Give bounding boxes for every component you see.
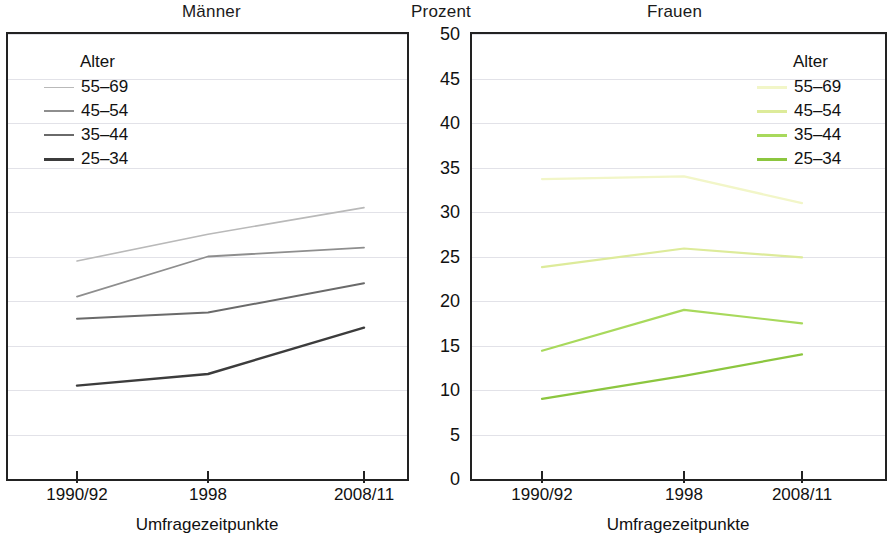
y-tick-label: 15 [440, 335, 460, 356]
series-line-55-69 [77, 208, 364, 261]
x-tick-label: 1990/92 [46, 485, 107, 505]
legend-item: 35–44 [44, 123, 128, 147]
legend-item: 45–54 [44, 99, 128, 123]
legend-label: 45–54 [794, 101, 841, 121]
left-panel-title: Männer [182, 2, 241, 22]
series-line-35-44 [542, 310, 802, 351]
y-tick-label: 10 [440, 380, 460, 401]
legend-label: 45–54 [81, 101, 128, 121]
legend-label: 35–44 [794, 125, 841, 145]
series-line-45-54 [77, 248, 364, 297]
series-line-55-69 [542, 176, 802, 203]
legend-label: 55–69 [794, 77, 841, 97]
legend-item: 35–44 [757, 123, 841, 147]
right-x-axis: 1990/9219982008/11 [470, 483, 887, 517]
x-tick-mark [801, 471, 803, 483]
y-tick-label: 20 [440, 291, 460, 312]
y-tick-label: 5 [450, 424, 460, 445]
series-line-45-54 [542, 249, 802, 268]
legend-item: 25–34 [757, 147, 841, 171]
right-legend-rows: 55–6945–5435–4425–34 [757, 75, 841, 171]
legend-label: 25–34 [794, 149, 841, 169]
x-tick-mark [363, 471, 365, 483]
left-legend: Alter 55–6945–5435–4425–34 [44, 52, 128, 171]
x-tick-label: 2008/11 [772, 485, 832, 505]
right-legend: Alter 55–6945–5435–4425–34 [757, 52, 841, 171]
x-tick-label: 1990/92 [511, 485, 572, 505]
x-tick-label: 1998 [665, 485, 703, 505]
legend-label: 55–69 [81, 77, 128, 97]
x-tick-label: 2008/11 [334, 485, 394, 505]
legend-item: 55–69 [757, 75, 841, 99]
left-x-axis: 1990/9219982008/11 [6, 483, 409, 517]
legend-swatch [44, 158, 74, 161]
series-line-25-34 [77, 328, 364, 386]
legend-label: 25–34 [81, 149, 128, 169]
y-axis-ticks: 05101520253035404550 [414, 32, 466, 481]
right-panel-title: Frauen [647, 2, 702, 22]
x-tick-mark [207, 471, 209, 483]
legend-swatch [44, 134, 74, 136]
right-legend-title: Alter [793, 52, 841, 72]
legend-label: 35–44 [81, 125, 128, 145]
y-tick-label: 50 [440, 24, 460, 45]
legend-swatch [44, 87, 74, 88]
legend-swatch [44, 110, 74, 112]
legend-swatch [757, 134, 787, 137]
y-tick-label: 25 [440, 246, 460, 267]
x-tick-mark [683, 471, 685, 483]
series-line-35-44 [77, 283, 364, 319]
legend-swatch [757, 158, 787, 161]
legend-item: 45–54 [757, 99, 841, 123]
legend-swatch [757, 110, 787, 113]
y-axis-title: Prozent [411, 2, 471, 22]
x-tick-label: 1998 [189, 485, 227, 505]
x-tick-mark [541, 471, 543, 483]
left-legend-title: Alter [80, 52, 128, 72]
y-tick-label: 35 [440, 157, 460, 178]
y-tick-label: 40 [440, 113, 460, 134]
series-line-25-34 [542, 354, 802, 399]
y-tick-label: 45 [440, 68, 460, 89]
left-x-axis-title: Umfragezeitpunkte [136, 515, 279, 535]
right-x-axis-title: Umfragezeitpunkte [607, 515, 750, 535]
dual-line-chart-figure: Männer Prozent Frauen 051015202530354045… [0, 0, 893, 553]
left-legend-rows: 55–6945–5435–4425–34 [44, 75, 128, 171]
y-tick-label: 30 [440, 202, 460, 223]
x-tick-mark [76, 471, 78, 483]
legend-swatch [757, 86, 787, 89]
y-tick-label: 0 [450, 469, 460, 490]
legend-item: 25–34 [44, 147, 128, 171]
legend-item: 55–69 [44, 75, 128, 99]
